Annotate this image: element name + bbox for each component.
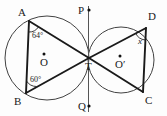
- label-point-p: P: [78, 4, 84, 16]
- label-point-a: A: [18, 6, 26, 18]
- label-point-d: D: [148, 10, 156, 22]
- label-angle-d: x: [137, 36, 142, 46]
- label-point-t: T: [85, 60, 92, 72]
- label-angle-a: 64°: [32, 31, 43, 40]
- label-point-b: B: [14, 95, 21, 107]
- label-center-o: O: [40, 56, 48, 68]
- point-dot-p: [87, 8, 90, 11]
- point-dot-q: [87, 104, 90, 107]
- geometry-canvas: A B D C T P Q O O′ 64° 60° x: [0, 0, 167, 116]
- label-angle-b: 60°: [30, 75, 41, 84]
- geometry-figure: A B D C T P Q O O′ 64° 60° x: [0, 0, 167, 116]
- label-point-c: C: [145, 94, 152, 106]
- label-point-q: Q: [78, 100, 86, 112]
- label-center-o-prime: O′: [115, 58, 125, 70]
